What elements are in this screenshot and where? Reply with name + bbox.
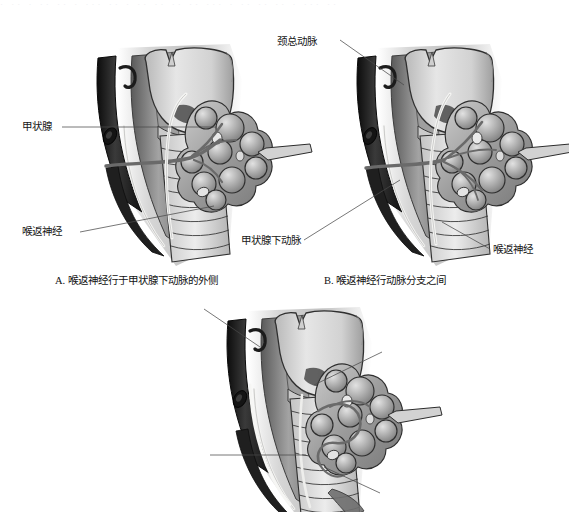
- label-inferior-thyroid-artery: 甲状腺下动脉: [241, 235, 301, 247]
- label-recurrent-laryngeal-nerve-b: 喉返神经: [493, 244, 533, 256]
- figure-root: · ·· · ·· ·· · ··· ·· · ·· ·· ·· ·· ··· …: [0, 0, 569, 512]
- panel-c-illustration: [142, 295, 427, 512]
- caption-panel-a: A. 喉返神经行于甲状腺下动脉的外侧: [55, 272, 218, 287]
- label-recurrent-laryngeal-nerve-a: 喉返神经: [22, 226, 62, 238]
- panel-a: 甲状腺 喉返神经 A. 喉返神经行于甲状腺下动脉的外侧: [0, 0, 285, 295]
- panel-b: 颈总动脉 甲状腺下动脉 喉返神经 B. 喉返神经行动脉分支之间: [284, 0, 569, 295]
- panel-c: 颈内静脉 环状软骨 迷走神经 食管: [142, 295, 427, 512]
- label-common-carotid-artery: 颈总动脉: [277, 36, 317, 48]
- caption-panel-b: B. 喉返神经行动脉分支之间: [324, 272, 446, 287]
- label-thyroid-gland: 甲状腺: [22, 121, 52, 133]
- panel-a-illustration: [0, 0, 285, 295]
